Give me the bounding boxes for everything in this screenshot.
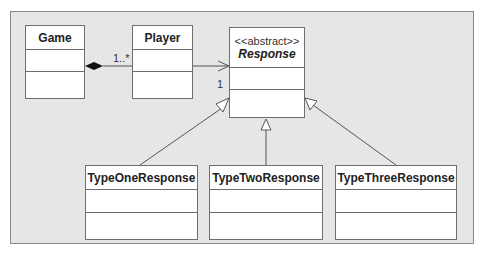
- multiplicity-player: 1..*: [113, 52, 130, 64]
- attributes-compartment: [336, 190, 456, 213]
- operations-compartment: [86, 213, 197, 239]
- operations-compartment: [133, 72, 192, 98]
- class-player[interactable]: Player: [132, 25, 193, 99]
- stereotype-label: <<abstract>>: [235, 35, 300, 47]
- class-type-two-response[interactable]: TypeTwoResponse: [209, 165, 323, 240]
- class-name: Player: [133, 26, 192, 50]
- association-link: [192, 61, 229, 71]
- class-type-three-response[interactable]: TypeThreeResponse: [335, 165, 457, 240]
- class-name: TypeTwoResponse: [210, 166, 322, 190]
- operations-compartment: [230, 90, 304, 117]
- class-response[interactable]: <<abstract>> Response: [229, 27, 305, 118]
- class-name: TypeOneResponse: [86, 166, 197, 190]
- operations-compartment: [210, 213, 322, 239]
- generalization-type-one: [140, 98, 229, 165]
- hollow-triangle-icon: [216, 98, 229, 112]
- class-type-one-response[interactable]: TypeOneResponse: [85, 165, 198, 240]
- class-name: Game: [26, 26, 84, 50]
- class-header: <<abstract>> Response: [230, 28, 304, 68]
- attributes-compartment: [86, 190, 197, 213]
- hollow-triangle-icon: [305, 98, 317, 110]
- operations-compartment: [336, 213, 456, 239]
- filled-diamond-icon: [85, 62, 103, 70]
- attributes-compartment: [230, 68, 304, 90]
- attributes-compartment: [210, 190, 322, 213]
- attributes-compartment: [26, 50, 84, 72]
- operations-compartment: [26, 72, 84, 98]
- class-name: TypeThreeResponse: [336, 166, 456, 190]
- generalization-type-two: [261, 119, 271, 165]
- class-name: Response: [238, 47, 295, 61]
- hollow-triangle-icon: [261, 119, 271, 130]
- class-game[interactable]: Game: [25, 25, 85, 99]
- generalization-type-three: [305, 98, 396, 165]
- attributes-compartment: [133, 50, 192, 72]
- multiplicity-response: 1: [217, 78, 223, 90]
